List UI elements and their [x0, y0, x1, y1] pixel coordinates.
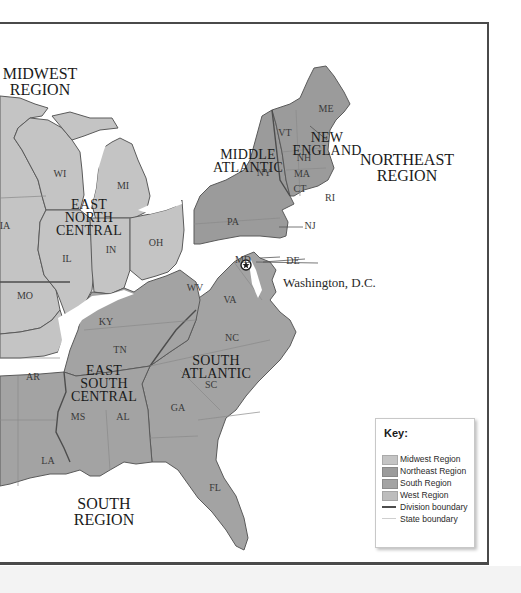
division-label-east-south-central: EAST SOUTH CENTRAL: [71, 364, 137, 403]
region-label-midwest: MIDWEST REGION: [3, 66, 78, 98]
midwest-swatch-icon: [382, 455, 398, 465]
legend-item-west: West Region: [382, 489, 472, 501]
state-label-pa: PA: [227, 217, 239, 227]
state-label-nj: NJ: [304, 221, 315, 231]
state-label-me: ME: [319, 104, 334, 114]
state-label-fl: FL: [209, 483, 221, 493]
division-label-line: CENTRAL: [56, 224, 122, 237]
state-label-ms: MS: [71, 412, 85, 422]
legend-item-label: West Region: [400, 489, 449, 501]
west-swatch-icon: [382, 491, 398, 501]
state-label-sc: SC: [205, 380, 217, 390]
northeast-swatch-icon: [382, 467, 398, 477]
division-label-middle-atlantic: MIDDLE ATLANTIC: [213, 148, 283, 174]
state-label-ny: NY: [257, 168, 271, 178]
region-label-line: REGION: [360, 168, 454, 184]
state-label-ma: MA: [294, 169, 310, 179]
frame-top-border: [0, 22, 489, 24]
state-label-wv: WV: [187, 283, 204, 293]
region-label-line: MIDWEST: [3, 66, 78, 82]
region-label-line: SOUTH: [74, 496, 134, 512]
legend-item-label: Northeast Region: [400, 465, 466, 477]
state-label-ky: KY: [99, 317, 113, 327]
state-label-mo: MO: [17, 291, 33, 301]
state-label-al: AL: [116, 412, 129, 422]
state-label-de: DE: [286, 256, 299, 266]
legend-item-state-boundary: State boundary: [382, 513, 472, 525]
legend-item-label: State boundary: [400, 513, 458, 525]
frame-bottom-border: [0, 562, 489, 565]
legend-item-label: Division boundary: [400, 501, 468, 513]
state-label-ga: GA: [171, 403, 185, 413]
south-swatch-icon: [382, 479, 398, 489]
division-label-line: CENTRAL: [71, 390, 137, 403]
division-label-south-atlantic: SOUTH ATLANTIC: [181, 354, 251, 380]
legend-title: Key:: [384, 427, 408, 439]
division-label-east-north-central: EAST NORTH CENTRAL: [56, 198, 122, 237]
state-label-il: IL: [62, 254, 71, 264]
legend-item-south: South Region: [382, 477, 472, 489]
legend-item-northeast: Northeast Region: [382, 465, 472, 477]
state-label-md: MD: [235, 255, 251, 265]
division-label-line: ATLANTIC: [213, 161, 283, 174]
state-label-wi: WI: [54, 169, 67, 179]
division-line-icon: [382, 506, 396, 508]
state-label-mi: MI: [117, 181, 129, 191]
state-line-icon: [382, 518, 396, 519]
state-label-vt: VT: [278, 128, 291, 138]
state-label-tn: TN: [113, 345, 126, 355]
legend-item-label: South Region: [400, 477, 452, 489]
legend-item-division-boundary: Division boundary: [382, 501, 472, 513]
legend-item-midwest: Midwest Region: [382, 453, 472, 465]
state-label-ia: IA: [0, 221, 10, 231]
region-label-northeast: NORTHEAST REGION: [360, 152, 454, 184]
state-label-in: IN: [106, 245, 117, 255]
region-label-line: REGION: [74, 512, 134, 528]
state-label-oh: OH: [149, 238, 163, 248]
region-label-line: REGION: [3, 82, 78, 98]
state-label-nh: NH: [297, 153, 311, 163]
state-label-ri: RI: [325, 193, 335, 203]
legend-item-label: Midwest Region: [400, 453, 460, 465]
state-label-va: VA: [223, 295, 236, 305]
region-label-line: NORTHEAST: [360, 152, 454, 168]
map-legend: Key: Midwest Region Northeast Region Sou…: [375, 418, 475, 548]
region-label-south: SOUTH REGION: [74, 496, 134, 528]
frame-right-border: [487, 22, 489, 564]
state-label-ar: AR: [26, 372, 40, 382]
state-label-ct: CT: [294, 184, 307, 194]
state-label-nc: NC: [225, 333, 239, 343]
state-label-la: LA: [41, 456, 54, 466]
callout-washington-dc: Washington, D.C.: [283, 276, 376, 289]
